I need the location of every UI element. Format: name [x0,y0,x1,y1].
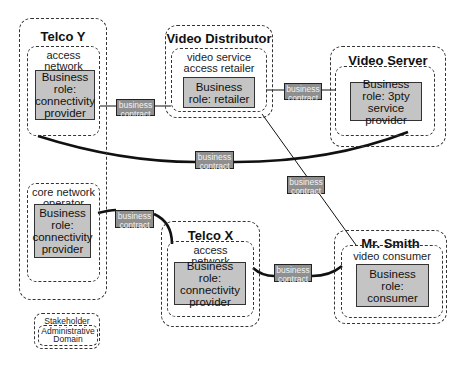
domain-title: Video Distributor [166,31,272,46]
contract-text: contract [117,110,154,119]
legend-text-line3: Domain [39,335,97,344]
contract-distributor-smith: business contract [287,176,325,194]
contract-text: contract [285,94,321,103]
contract-distributor-server: business contract [284,83,322,100]
contract-telcoy-server: business contract [195,151,234,169]
role-group-label: video service access retailer [172,52,266,74]
role-box-3pty-service-provider: Business role: 3pty service provider [350,82,422,121]
contract-telcoy-distributor: business contract [116,99,155,116]
contract-telcoy-core-telcox: business contract [115,210,154,228]
role-box-connectivity-provider: Business role: connectivity provider [35,70,95,120]
contract-text: contract [275,275,311,284]
role-box-consumer: Business role: consumer [356,264,429,307]
legend-role-group: Administrative Domain [38,325,98,346]
role-group-label: video consumer [342,251,442,262]
role-box-connectivity-provider: Business role: connectivity provider [34,204,91,258]
domain-title: Telco Y [20,29,106,44]
contract-telcox-smith: business contract [274,264,312,282]
role-box-connectivity-provider: Business role: connectivity provider [174,262,246,305]
contract-text: contract [196,162,233,171]
contract-text: contract [116,221,153,230]
contract-text: contract [288,187,324,196]
role-box-retailer: Business role: retailer [183,77,255,108]
